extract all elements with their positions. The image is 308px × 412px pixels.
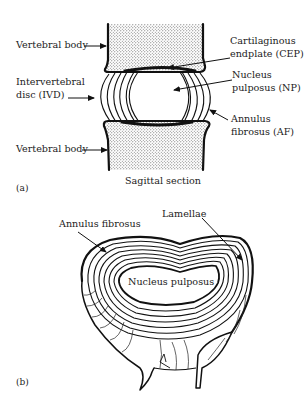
annulus-fibrosus-rings-left — [101, 72, 135, 122]
lower-vertebral-body — [104, 121, 210, 170]
intervertebral-disc-figure: Vertebral body Intervertebral disc (IVD)… — [0, 0, 308, 412]
label-annulus-fibrosus: Annulus fibrosus — [58, 218, 141, 229]
label-vertebral-body-top: Vertebral body — [15, 39, 88, 50]
panel-b-disc-3d: Annulus fibrosus Lamellae Nucleus pulpos… — [16, 208, 253, 390]
label-af-line2: fibrosus (AF) — [231, 126, 294, 137]
center-cutaway-edge — [154, 368, 196, 370]
label-ivd-line1: Intervertebral — [16, 76, 85, 87]
panel-a-sagittal-section: Vertebral body Intervertebral disc (IVD)… — [15, 24, 304, 193]
nucleus-pulposus-boundary — [129, 72, 189, 122]
panel-tag-b: (b) — [16, 377, 29, 387]
label-vertebral-body-bottom: Vertebral body — [15, 143, 88, 154]
label-np-line1: Nucleus — [232, 69, 272, 80]
label-ivd-line2: disc (IVD) — [16, 89, 64, 100]
right-cutaway-flap — [196, 332, 232, 388]
label-np-line2: pulposus (NP) — [232, 82, 301, 93]
arrow-af — [210, 110, 228, 120]
label-lamellae: Lamellae — [162, 208, 207, 219]
panel-tag-a: (a) — [16, 183, 28, 193]
label-cep-line1: Cartilaginous — [230, 35, 296, 46]
caption-sagittal-section: Sagittal section — [125, 175, 201, 186]
label-cep-line2: endplate (CEP) — [230, 48, 304, 59]
label-af-line1: Annulus — [230, 113, 271, 124]
annulus-fibrosus-rings-right — [182, 72, 210, 122]
lamellae-rings — [88, 240, 248, 339]
arrow-np — [174, 80, 232, 90]
label-nucleus-pulposus: Nucleus pulposus — [128, 276, 214, 287]
